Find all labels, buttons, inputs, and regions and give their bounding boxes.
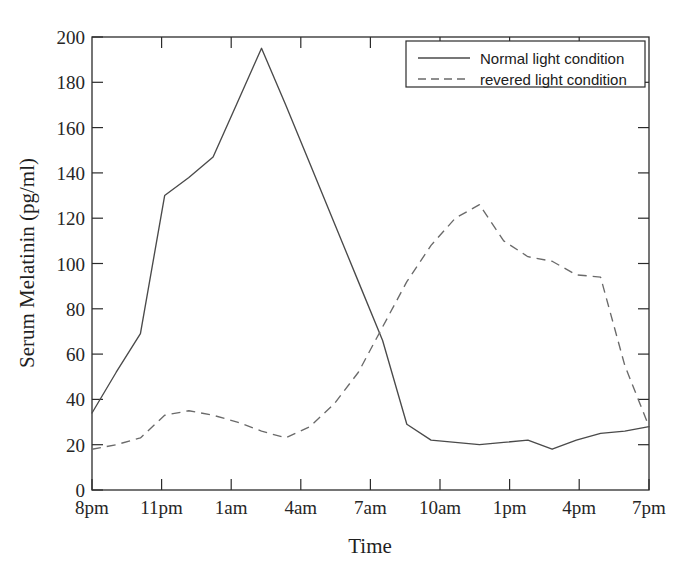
- x-tick-labels: 8pm 11pm 1am 4am 7am 10am 1pm 4pm 7pm: [75, 497, 666, 518]
- y-tick-labels: 200 180 160 140 120 100 80 60 40 20 0: [57, 27, 86, 501]
- y-tick-label: 120: [57, 208, 86, 229]
- x-tick-label: 1am: [215, 497, 248, 518]
- y-tick-label: 100: [57, 254, 86, 275]
- series-line-revered-light: [92, 205, 649, 450]
- legend: Normal light condition revered light con…: [406, 41, 645, 88]
- x-tick-label: 7am: [354, 497, 387, 518]
- x-tick-label: 10am: [419, 497, 461, 518]
- x-tick-label: 7pm: [632, 497, 666, 518]
- y-tick-label: 80: [66, 299, 85, 320]
- x-axis-title: Time: [348, 534, 392, 558]
- series-line-normal-light: [92, 48, 649, 449]
- y-tick-label: 200: [57, 27, 86, 48]
- x-tick-marks: [92, 479, 649, 490]
- y-tick-marks: [92, 37, 103, 490]
- y-tick-label: 180: [57, 72, 86, 93]
- y-axis-title: Serum Melatinin (pg/ml): [15, 158, 39, 368]
- y-tick-label: 140: [57, 163, 86, 184]
- x-tick-label: 4pm: [562, 497, 596, 518]
- y-tick-label: 60: [66, 344, 85, 365]
- plot-frame: [92, 37, 649, 490]
- chart-svg: 200 180 160 140 120 100 80 60 40 20 0: [0, 0, 689, 577]
- y-tick-marks-right: [638, 82, 649, 444]
- x-tick-label: 8pm: [75, 497, 109, 518]
- x-tick-label: 4am: [284, 497, 317, 518]
- melatonin-line-chart: 200 180 160 140 120 100 80 60 40 20 0: [0, 0, 689, 577]
- y-tick-label: 40: [66, 389, 85, 410]
- y-tick-label: 20: [66, 435, 85, 456]
- legend-label-normal: Normal light condition: [480, 50, 624, 67]
- x-tick-label: 11pm: [140, 497, 183, 518]
- x-tick-label: 1pm: [493, 497, 527, 518]
- y-tick-label: 160: [57, 118, 86, 139]
- legend-label-revered: revered light condition: [480, 71, 627, 88]
